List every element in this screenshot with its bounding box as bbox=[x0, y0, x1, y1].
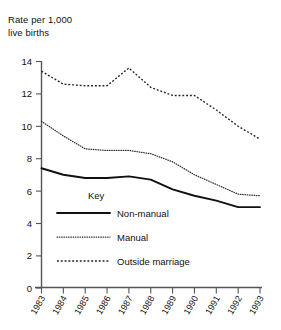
series-outside-marriage bbox=[42, 68, 261, 139]
x-tick-label: 1984 bbox=[50, 294, 69, 316]
x-tick-label: 1990 bbox=[182, 294, 201, 316]
y-tick-label: 8 bbox=[27, 153, 32, 164]
data-series-layer bbox=[42, 68, 261, 207]
x-axis-tick-labels: 1983198419851986198719881989199019911992… bbox=[29, 294, 266, 316]
x-tick-label: 1983 bbox=[29, 294, 48, 316]
legend-label-manual: Manual bbox=[117, 232, 148, 243]
x-axis-ticks bbox=[42, 288, 261, 294]
x-tick-label: 1985 bbox=[72, 294, 91, 316]
x-tick-label: 1992 bbox=[225, 294, 244, 316]
x-tick-label: 1988 bbox=[138, 294, 157, 316]
y-axis-tick-labels: 14 12 10 8 6 4 2 0 bbox=[21, 56, 32, 294]
y-tick-label: 6 bbox=[27, 186, 32, 197]
x-tick-label: 1989 bbox=[160, 294, 179, 316]
y-axis-ticks bbox=[36, 62, 42, 289]
x-tick-label: 1986 bbox=[94, 294, 113, 316]
legend: Key Non-manual Manual Outside marriage bbox=[57, 190, 190, 267]
x-tick-label: 1991 bbox=[203, 294, 222, 316]
y-tick-label: 12 bbox=[21, 88, 32, 99]
chart-plot-area: 14 12 10 8 6 4 2 0 198319841985198619871… bbox=[0, 0, 281, 330]
x-tick-label: 1987 bbox=[116, 294, 135, 316]
legend-title: Key bbox=[88, 190, 105, 201]
y-tick-label: 14 bbox=[21, 56, 32, 67]
series-non-manual bbox=[42, 168, 261, 207]
y-tick-label: 2 bbox=[27, 250, 32, 261]
legend-label-non-manual: Non-manual bbox=[117, 208, 169, 219]
legend-label-outside-marriage: Outside marriage bbox=[117, 256, 190, 267]
x-tick-label: 1993 bbox=[247, 294, 266, 316]
line-chart: Rate per 1,000 live births 14 12 10 8 6 … bbox=[0, 0, 281, 330]
y-tick-label: 10 bbox=[21, 121, 32, 132]
y-tick-label: 0 bbox=[27, 283, 32, 294]
y-tick-label: 4 bbox=[27, 218, 32, 229]
series-manual bbox=[42, 121, 261, 195]
